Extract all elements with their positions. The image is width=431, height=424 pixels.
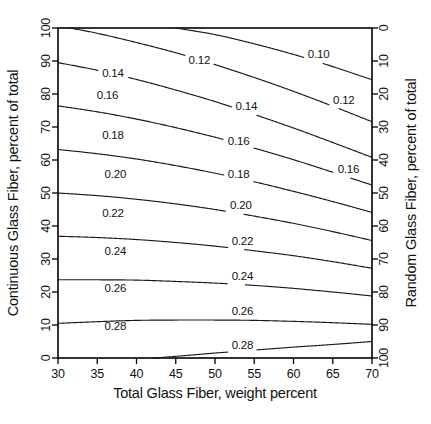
contour-label-0-12: 0.12 (333, 94, 355, 106)
y2-tick-label: 10 (377, 54, 391, 68)
y-tick-label: 60 (39, 153, 53, 167)
y-tick-label: 80 (39, 87, 53, 101)
contour-label-0-20: 0.20 (230, 199, 252, 211)
contour-label-0-10: 0.10 (308, 48, 330, 60)
contour-label-0-24: 0.24 (232, 270, 254, 282)
contour-label-0-26: 0.26 (105, 282, 127, 294)
y2-tick-label: 80 (377, 285, 391, 299)
contour-line-0-20 (244, 214, 372, 240)
contour-line-0-18 (254, 182, 372, 213)
y-tick-label: 0 (39, 354, 53, 361)
x-tick-label: 50 (208, 367, 222, 381)
contour-line-0-16 (351, 178, 372, 185)
x-axis-title: Total Glass Fiber, weight percent (113, 385, 317, 401)
y2-tick-label: 50 (377, 186, 391, 200)
y-tick-label: 30 (39, 252, 53, 266)
x-axis-tick-labels: 303540455055606570 (51, 367, 379, 381)
contour-label-0-18: 0.18 (102, 129, 124, 141)
y2-tick-label: 30 (377, 120, 391, 134)
contour-line-0-14 (128, 77, 231, 106)
contour-line-0-12 (70, 28, 185, 55)
contour-line-0-28 (257, 342, 372, 350)
x-tick-label: 70 (365, 367, 379, 381)
contour-line-0-16 (58, 106, 223, 139)
x-tick-label: 45 (169, 367, 183, 381)
y-tick-label: 70 (39, 120, 53, 134)
y2-tick-label: 70 (377, 252, 391, 266)
contour-line-0-24 (58, 280, 227, 284)
contour-line-0-22 (58, 236, 228, 247)
contour-line-0-14 (257, 115, 372, 157)
y-tick-label: 20 (39, 285, 53, 299)
x-tick-label: 40 (130, 367, 144, 381)
y2-tick-label: 90 (377, 318, 391, 332)
x-tick-label: 30 (51, 367, 65, 381)
y2-tick-label: 40 (377, 153, 391, 167)
x-tick-label: 35 (91, 367, 105, 381)
y-tick-label: 100 (39, 18, 53, 38)
contour-line-0-10 (176, 28, 304, 57)
contour-line-0-22 (245, 250, 372, 269)
y-tick-label: 90 (39, 54, 53, 68)
contour-label-0-14: 0.14 (236, 100, 258, 112)
contour-line-0-14 (58, 63, 98, 71)
contour-plot-canvas: 303540455055606570 010203040506070809010… (0, 0, 431, 424)
contour-line-0-16 (254, 148, 333, 172)
contour-line-0-20 (58, 193, 226, 211)
y2-tick-label: 100 (377, 348, 391, 368)
contour-line-0-10 (323, 63, 372, 79)
contour-labels-group: 0.100.120.120.140.140.160.160.160.180.18… (97, 48, 360, 351)
contour-label-0-16: 0.16 (97, 89, 119, 101)
contour-label-0-22: 0.22 (232, 235, 254, 247)
x-tick-label: 65 (326, 367, 340, 381)
contour-line-0-28 (154, 352, 228, 358)
contour-label-0-22: 0.22 (102, 207, 124, 219)
y2-tick-label: 0 (377, 24, 391, 31)
contour-plot-figure: 303540455055606570 010203040506070809010… (0, 0, 431, 424)
contour-line-0-18 (58, 149, 224, 175)
contour-label-0-24: 0.24 (105, 245, 127, 257)
x-axis-ticks (58, 358, 372, 364)
contour-label-0-28: 0.28 (232, 339, 254, 351)
y-axis-left-title: Continuous Glass Fiber, percent of total (5, 70, 21, 317)
y-tick-label: 10 (39, 318, 53, 332)
contour-label-0-14: 0.14 (102, 67, 124, 79)
y-axis-right-tick-labels: 0102030405060708090100 (377, 24, 391, 368)
contour-label-0-20: 0.20 (105, 168, 127, 180)
x-tick-label: 60 (287, 367, 301, 381)
contour-label-0-16: 0.16 (338, 163, 360, 175)
contour-line-0-12 (339, 109, 372, 122)
y2-tick-label: 20 (377, 87, 391, 101)
contour-label-0-16: 0.16 (228, 135, 250, 147)
contour-line-0-12 (214, 64, 329, 104)
x-tick-label: 55 (248, 367, 262, 381)
y2-tick-label: 60 (377, 219, 391, 233)
y-axis-left-tick-labels: 0102030405060708090100 (39, 18, 53, 362)
contour-label-0-12: 0.12 (189, 54, 211, 66)
y-tick-label: 40 (39, 219, 53, 233)
y-tick-label: 50 (39, 186, 53, 200)
contour-label-0-26: 0.26 (232, 305, 254, 317)
contour-label-0-28: 0.28 (105, 320, 127, 332)
contour-label-0-18: 0.18 (228, 168, 250, 180)
y-axis-right-title: Random Glass Fiber, percent of total (403, 79, 419, 308)
contour-line-0-24 (245, 285, 372, 296)
